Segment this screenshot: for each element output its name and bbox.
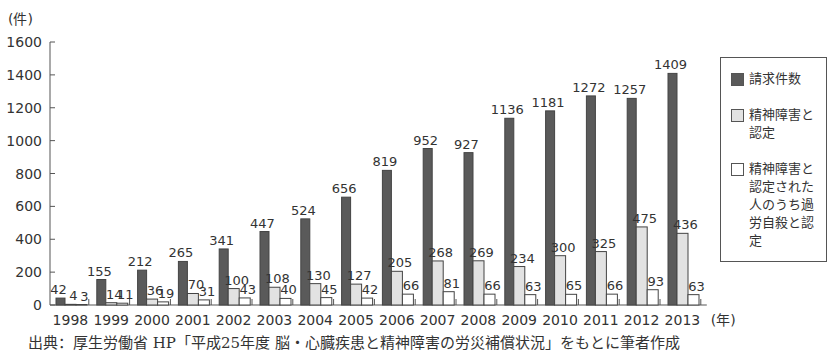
bar-value-label: 234 <box>510 251 535 266</box>
bar <box>402 294 413 305</box>
legend-item-recognized: 精神障害と認定 <box>731 106 825 142</box>
y-tick-label: 1600 <box>6 34 42 50</box>
bar-value-label: 66 <box>403 278 420 293</box>
bar-value-label: 81 <box>443 276 460 291</box>
y-tick-label: 800 <box>15 166 42 182</box>
bar-value-label: 952 <box>413 133 438 148</box>
bar <box>566 294 577 305</box>
bar-value-label: 1257 <box>613 82 646 97</box>
x-tick-label: 2006 <box>379 312 415 328</box>
bar-value-label: 1181 <box>532 95 565 110</box>
x-tick-label: 2000 <box>134 312 170 328</box>
bar-value-label: 93 <box>647 274 664 289</box>
bar-value-label: 11 <box>117 287 134 302</box>
bar-value-label: 19 <box>158 286 175 301</box>
x-tick-label: 2007 <box>420 312 456 328</box>
bar-value-label: 65 <box>566 278 583 293</box>
legend-label: 精神障害と認定 <box>749 106 825 142</box>
bar <box>668 73 677 305</box>
bar <box>688 295 699 305</box>
bar <box>473 261 484 305</box>
bar-value-label: 265 <box>168 245 193 260</box>
x-tick-label: 2010 <box>542 312 578 328</box>
y-tick-label: 1400 <box>6 67 42 83</box>
bar-value-label: 205 <box>387 255 412 270</box>
bar <box>606 294 617 305</box>
bar <box>106 303 117 305</box>
bar <box>514 267 525 305</box>
bar-value-label: 341 <box>209 233 234 248</box>
bar-value-label: 42 <box>50 282 67 297</box>
x-tick-label: 2009 <box>501 312 537 328</box>
source-caption: 出典：厚生労働省 HP「平成25年度 脳・心臓疾患と精神障害の労災補償状況」をも… <box>28 331 680 352</box>
bar-value-label: 656 <box>332 181 357 196</box>
bar <box>321 298 332 305</box>
bar-value-label: 1409 <box>654 57 687 72</box>
bar <box>56 298 65 305</box>
x-tick-label: 1998 <box>53 312 89 328</box>
bar <box>198 300 209 305</box>
bar <box>382 170 391 305</box>
bar <box>269 287 280 305</box>
bar-value-label: 45 <box>321 282 338 297</box>
x-tick-label: 2013 <box>665 312 701 328</box>
bar-value-label: 42 <box>362 282 379 297</box>
bar-value-label: 475 <box>632 211 657 226</box>
bar <box>391 271 402 305</box>
legend-label: 精神障害と認定された人のうち過労自殺と認定 <box>749 160 825 250</box>
bar <box>147 299 158 305</box>
bar <box>595 252 606 305</box>
bar <box>546 111 555 305</box>
bar <box>677 233 688 305</box>
bar-value-label: 63 <box>688 279 705 294</box>
bar <box>117 303 128 305</box>
bar <box>228 289 239 305</box>
y-tick-label: 200 <box>15 264 42 280</box>
bar <box>443 292 454 305</box>
bar <box>138 270 147 305</box>
bar <box>310 284 321 305</box>
bar-value-label: 155 <box>87 264 112 279</box>
bar <box>239 298 250 305</box>
x-tick-label: 2002 <box>216 312 252 328</box>
bar-value-label: 1136 <box>491 102 524 117</box>
bar <box>647 290 658 305</box>
bar <box>586 96 595 305</box>
bar-value-label: 66 <box>484 278 501 293</box>
bar-value-label: 127 <box>347 268 372 283</box>
bar-value-label: 436 <box>673 217 698 232</box>
legend-item-claims: 請求件数 <box>731 70 825 88</box>
bar-value-label: 268 <box>428 245 453 260</box>
bar-value-label: 43 <box>239 282 256 297</box>
legend-swatch-light <box>731 109 744 122</box>
bar <box>280 298 291 305</box>
y-tick-label: 400 <box>15 231 42 247</box>
bar <box>362 298 373 305</box>
bar <box>555 256 566 305</box>
bar-value-label: 819 <box>372 154 397 169</box>
bar <box>464 153 473 305</box>
x-tick-label: 2012 <box>624 312 660 328</box>
bar-value-label: 325 <box>591 236 616 251</box>
y-tick-label: 0 <box>33 297 42 313</box>
bar-value-label: 3 <box>80 289 88 304</box>
x-tick-label: 2005 <box>338 312 374 328</box>
bar <box>158 302 169 305</box>
bar-value-label: 212 <box>128 254 153 269</box>
y-tick-label: 1200 <box>6 100 42 116</box>
x-tick-label: 2003 <box>257 312 293 328</box>
bar <box>525 295 536 305</box>
x-tick-label: 2001 <box>175 312 211 328</box>
bar-value-label: 66 <box>607 278 624 293</box>
bar <box>432 261 443 305</box>
bar <box>636 227 647 305</box>
bar <box>97 280 106 305</box>
bar <box>627 98 636 305</box>
bar-value-label: 130 <box>306 268 331 283</box>
bar <box>505 118 514 305</box>
chart-legend: 請求件数 精神障害と認定 精神障害と認定された人のうち過労自殺と認定 <box>720 57 827 262</box>
bar <box>178 261 187 305</box>
bar <box>342 197 351 305</box>
legend-item-suicide: 精神障害と認定された人のうち過労自殺と認定 <box>731 160 825 250</box>
